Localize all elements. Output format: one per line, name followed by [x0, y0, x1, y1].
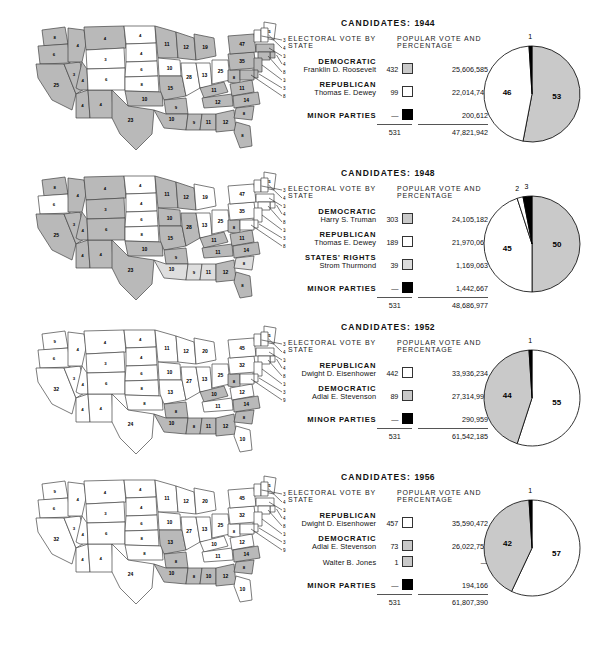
state-nh[interactable]	[261, 332, 268, 346]
callout-arrow-ct	[268, 360, 282, 376]
state-ma[interactable]	[256, 498, 274, 506]
state-label-tn: 11	[215, 249, 221, 255]
state-label-ky: 11	[211, 87, 217, 93]
candidate-name: Thomas E. Dewey	[288, 89, 376, 97]
election-panel-1948: 8625344344464468102311101591012289111913…	[0, 168, 612, 318]
state-ri[interactable]	[270, 202, 275, 208]
result-rows: DEMOCRATICHarry S. Truman30324,105,182RE…	[288, 205, 488, 293]
popular-vote-pie-1948[interactable]: 504523	[466, 182, 606, 318]
candidate-names: REPUBLICANThomas E. Dewey	[288, 231, 380, 247]
electoral-votes: 189	[380, 238, 402, 247]
pie-value-label: 53	[552, 92, 561, 101]
col-head-electoral: ELECTORAL VOTE BY STATE	[288, 185, 395, 199]
state-label-ia: 10	[167, 519, 173, 525]
legend-swatch-white	[402, 86, 413, 97]
candidate-names: REPUBLICANDwight D. Eisenhower	[288, 512, 380, 528]
state-label-mi: 19	[202, 194, 208, 200]
state-label-vt: 3	[283, 342, 286, 347]
state-ri[interactable]	[270, 356, 275, 362]
state-label-ia: 10	[167, 65, 173, 71]
state-label-ct: 8	[283, 524, 286, 529]
state-label-mi: 19	[202, 44, 208, 50]
callout-arrow-ct	[268, 56, 282, 72]
state-label-mi: 20	[202, 498, 208, 504]
legend-swatch-black	[402, 109, 413, 120]
state-label-tx: 23	[128, 117, 134, 123]
state-label-vt: 3	[283, 188, 286, 193]
candidate-name: Strom Thurmond	[288, 262, 376, 270]
state-vt[interactable]	[254, 484, 261, 496]
state-nh[interactable]	[261, 482, 268, 496]
state-vt[interactable]	[254, 180, 261, 192]
state-label-nc: 14	[244, 97, 250, 103]
total-electoral-votes: 531	[377, 297, 412, 310]
state-nh[interactable]	[261, 28, 268, 42]
state-vt[interactable]	[254, 334, 261, 346]
candidate-names: DEMOCRATICAdlai E. Stevenson	[288, 385, 380, 401]
electoral-votes: 1	[380, 558, 402, 567]
panel-title-1948: CANDIDATES: 1948	[288, 168, 488, 178]
state-md[interactable]	[240, 220, 254, 230]
state-label-ct: 8	[283, 70, 286, 75]
state-label-mi: 20	[202, 348, 208, 354]
legend-swatch-white	[402, 367, 413, 378]
electoral-map-1948[interactable]: 8625344344464468102311101591012289111913…	[24, 168, 286, 318]
legend-swatch-gray	[402, 213, 413, 224]
party-label: MINOR PARTIES	[288, 582, 376, 590]
state-label-tx: 23	[128, 267, 134, 273]
state-vt[interactable]	[254, 30, 261, 42]
state-ri[interactable]	[270, 52, 275, 58]
state-md[interactable]	[240, 524, 254, 534]
electoral-map-1944[interactable]: 8625344344464468102311101591012289111913…	[24, 18, 286, 168]
candidate-name: Adlai E. Stevenson	[288, 543, 376, 551]
state-label-ri: 4	[283, 62, 286, 67]
party-label: MINOR PARTIES	[288, 112, 376, 120]
state-ma[interactable]	[256, 44, 274, 52]
state-nh[interactable]	[261, 178, 268, 192]
callout-arrow-de	[259, 528, 282, 542]
candidate-name: Harry S. Truman	[288, 216, 376, 224]
state-md[interactable]	[240, 374, 254, 384]
electoral-map-1952[interactable]: 9632344344464468824111013810122781120131…	[24, 322, 286, 472]
state-label-mo: 15	[167, 235, 173, 241]
state-label-ky: 11	[211, 237, 217, 243]
legend-swatch-gray	[402, 556, 413, 567]
state-label-fl: 10	[240, 436, 246, 442]
candidate-name: Walter B. Jones	[288, 559, 376, 567]
state-ri[interactable]	[270, 506, 275, 512]
state-ma[interactable]	[256, 194, 274, 202]
result-row: Walter B. Jones1—	[288, 555, 488, 567]
popular-vote-pie-1952[interactable]: 55441	[466, 336, 606, 472]
candidate-names: DEMOCRATICFranklin D. Roosevelt	[288, 58, 380, 74]
state-label-mn: 11	[164, 41, 170, 47]
results-table-1952: CANDIDATES: 1952 ELECTORAL VOTE BY STATE…	[288, 322, 488, 472]
state-label-nj: 16	[283, 78, 286, 83]
state-label-pa: 35	[239, 58, 245, 64]
state-label-pa: 35	[239, 208, 245, 214]
state-label-tn: 11	[215, 403, 221, 409]
state-label-de: 3	[283, 86, 286, 91]
state-label-nh: 4	[283, 350, 286, 355]
state-label-md: 8	[283, 94, 286, 99]
popular-vote-pie-1956[interactable]: 57421	[466, 486, 606, 622]
state-label-wi: 12	[183, 194, 189, 200]
electoral-map-1956[interactable]: 9632344344464468824111013810122781020131…	[24, 472, 286, 622]
callout-arrow-de	[259, 224, 282, 238]
state-label-in: 13	[202, 376, 208, 382]
candidate-name: Dwight D. Eisenhower	[288, 370, 376, 378]
state-ma[interactable]	[256, 348, 274, 356]
callout-arrow-ct	[268, 510, 282, 526]
state-md[interactable]	[240, 70, 254, 80]
state-label-mn: 11	[164, 345, 170, 351]
callout-arrow-ri	[277, 55, 283, 64]
result-row: STATES' RIGHTSStrom Thurmond391,169,063	[288, 251, 488, 270]
state-label-pa: 32	[239, 512, 245, 518]
state-label-ky: 10	[211, 541, 217, 547]
popular-vote-pie-1944[interactable]: 53461	[466, 32, 606, 168]
candidate-name: Franklin D. Roosevelt	[288, 66, 376, 74]
state-label-mo: 13	[167, 389, 173, 395]
pie-value-label: 2	[515, 185, 519, 192]
legend-swatch-black	[402, 579, 413, 590]
state-label-ca: 32	[54, 386, 60, 392]
col-head-electoral: ELECTORAL VOTE BY STATE	[288, 489, 395, 503]
